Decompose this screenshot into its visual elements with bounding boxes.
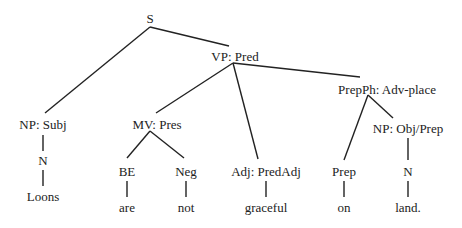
node-s: S <box>146 12 153 25</box>
node-prep: Prep <box>332 165 356 178</box>
node-np-obj-prep: NP: Obj/Prep <box>373 122 443 135</box>
node-np-subj: NP: Subj <box>19 118 66 131</box>
node-prepph-adv-place: PrepPh: Adv-place <box>338 83 436 96</box>
edge-vp-to-adj <box>233 63 258 159</box>
word-not: not <box>178 201 195 214</box>
node-adj-predadj: Adj: PredAdj <box>231 165 301 178</box>
word-loons: Loons <box>27 190 60 203</box>
node-mv-pres: MV: Pres <box>132 118 181 131</box>
syntax-tree-diagram: S VP: Pred NP: Subj MV: Pres PrepPh: Adv… <box>0 0 462 228</box>
edge-prepph-to-prep <box>344 95 368 160</box>
edge-vp-to-prepph <box>233 63 360 77</box>
edge-prepph-to-np_obj <box>368 95 393 118</box>
edge-s-to-vp <box>150 27 229 46</box>
edge-mv-to-neg <box>150 131 184 158</box>
node-n-subject: N <box>38 154 47 167</box>
edge-vp-to-mv <box>156 63 233 113</box>
edge-mv-to-be <box>127 131 150 158</box>
word-land: land. <box>395 201 421 214</box>
word-on: on <box>338 201 351 214</box>
word-graceful: graceful <box>245 201 288 214</box>
node-neg: Neg <box>175 165 197 178</box>
node-vp-pred: VP: Pred <box>211 50 258 63</box>
word-are: are <box>119 201 135 214</box>
node-n-object: N <box>403 165 412 178</box>
node-be: BE <box>119 165 136 178</box>
tree-edges <box>0 0 462 228</box>
edge-s-to-np_subj <box>45 27 150 113</box>
